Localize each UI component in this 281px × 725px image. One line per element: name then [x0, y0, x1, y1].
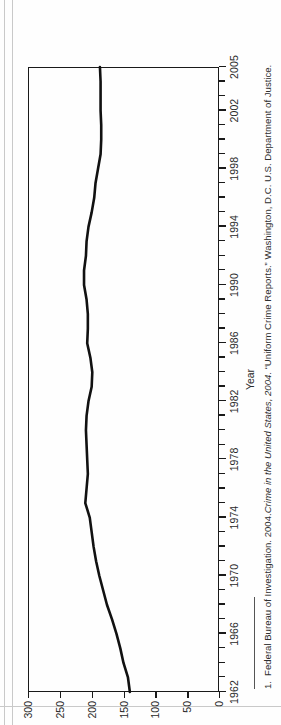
y-axis-tick-label: 300 — [22, 701, 34, 719]
x-axis-tick — [219, 284, 226, 285]
y-axis-tick — [60, 692, 61, 698]
x-axis-tick — [219, 458, 226, 459]
y-axis-tick — [124, 692, 125, 698]
x-axis-tick — [219, 545, 225, 546]
x-axis-tick — [219, 255, 225, 256]
x-axis-tick-label: 1978 — [228, 448, 240, 472]
x-axis-tick — [219, 473, 225, 474]
y-axis-tick — [28, 692, 29, 698]
x-axis-tick — [219, 95, 225, 96]
x-axis-tick-label: 2005 — [228, 55, 240, 79]
x-axis-tick — [219, 153, 225, 154]
x-axis-tick-label: 2002 — [228, 99, 240, 123]
x-axis-tick-label: 1966 — [228, 622, 240, 646]
y-axis-tick-label: 100 — [149, 701, 161, 719]
x-axis-tick — [219, 182, 225, 183]
x-axis-tick — [219, 574, 226, 575]
y-axis-tick — [187, 692, 188, 698]
footnote: 1.Federal Bureau of Investigation. 2004.… — [262, 29, 273, 689]
x-axis-tick — [219, 603, 225, 604]
x-axis-tick — [219, 298, 225, 299]
x-axis-tick — [219, 676, 225, 677]
x-axis-tick — [219, 444, 225, 445]
x-axis-tick — [219, 560, 225, 561]
x-axis-tick — [219, 516, 226, 517]
x-axis-tick-label: 1974 — [228, 506, 240, 530]
x-axis-tick — [219, 138, 225, 139]
y-axis-tick — [155, 692, 156, 698]
figure-canvas: 1962196619701974197819821986199019941998… — [0, 0, 281, 725]
x-axis-tick — [219, 371, 225, 372]
x-axis-tick — [219, 487, 225, 488]
x-axis-tick-label: 1994 — [228, 215, 240, 239]
footnote-marker: 1. — [262, 681, 273, 689]
x-axis-title: Year — [244, 369, 256, 390]
x-axis-tick — [219, 196, 225, 197]
x-axis-tick — [219, 226, 226, 227]
y-axis-tick-label: 0 — [213, 701, 225, 707]
x-axis-tick-label: 1990 — [228, 273, 240, 297]
x-axis-tick — [219, 269, 225, 270]
x-axis-tick — [219, 647, 225, 648]
x-axis-tick — [219, 80, 225, 81]
x-axis-tick — [219, 385, 225, 386]
rotated-figure-wrapper: 1962196619701974197819821986199019941998… — [0, 0, 281, 725]
footnote-text-after-title: . “Uniform Crime Reports.” Washington, D… — [262, 65, 273, 375]
data-line-series-rate — [84, 67, 130, 692]
x-axis-tick-label: 1962 — [228, 680, 240, 704]
x-axis-tick — [219, 589, 225, 590]
plot-area — [28, 67, 219, 692]
x-axis-tick — [219, 327, 225, 328]
x-axis-tick-label: 1970 — [228, 564, 240, 588]
x-axis-tick — [219, 400, 226, 401]
x-axis-tick — [219, 632, 226, 633]
x-axis-tick — [219, 66, 226, 67]
y-axis-tick-label: 250 — [54, 701, 66, 719]
x-axis-tick — [219, 618, 225, 619]
x-axis-tick — [219, 502, 225, 503]
footnote-rule — [254, 597, 255, 689]
x-axis-tick-label: 1982 — [228, 389, 240, 413]
x-axis-tick — [219, 124, 225, 125]
y-axis-tick — [219, 692, 220, 698]
x-axis-tick — [219, 356, 225, 357]
x-axis-tick — [219, 167, 226, 168]
footnote-publication-title: Crime in the United States, 2004 — [262, 375, 273, 514]
x-axis-tick — [219, 342, 226, 343]
x-axis-tick — [219, 429, 225, 430]
x-axis-tick-label: 1986 — [228, 331, 240, 355]
x-axis-tick-label: 1998 — [228, 157, 240, 181]
y-axis-tick — [92, 692, 93, 698]
x-axis-tick — [219, 109, 226, 110]
x-axis-tick — [219, 531, 225, 532]
footnote-text-before-title: Federal Bureau of Investigation. 2004. — [262, 513, 273, 676]
x-axis-tick — [219, 240, 225, 241]
y-axis-tick-label: 200 — [86, 701, 98, 719]
x-axis-tick — [219, 313, 225, 314]
y-axis-tick-label: 150 — [118, 701, 130, 719]
x-axis-tick — [219, 414, 225, 415]
x-axis-tick — [219, 662, 225, 663]
x-axis-tick — [219, 211, 225, 212]
y-axis-tick-label: 50 — [181, 701, 193, 713]
